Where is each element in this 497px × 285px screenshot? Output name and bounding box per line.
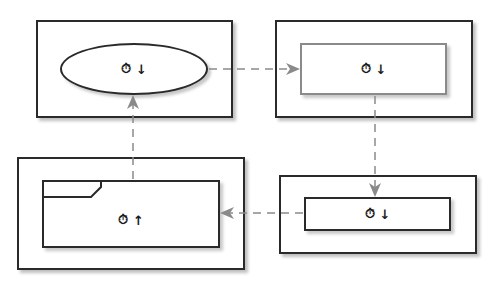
arrowhead-right	[286, 63, 300, 75]
edges-layer	[0, 0, 497, 285]
folder-tab	[43, 181, 101, 197]
